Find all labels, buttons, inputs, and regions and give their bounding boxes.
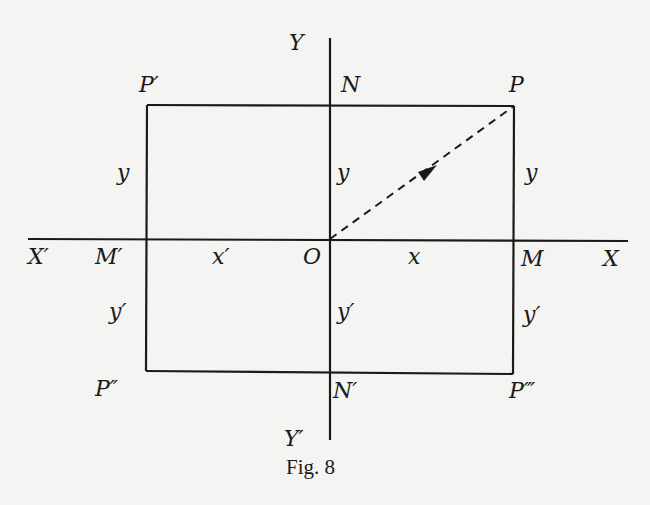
arrowhead-icon	[418, 165, 437, 181]
x-axis	[28, 239, 628, 241]
label-point-m: M	[520, 246, 544, 271]
label-y-axis: Y	[289, 30, 306, 55]
label-y-prime-left: y′	[108, 299, 126, 324]
label-point-p-triple-prime: P‴	[508, 378, 536, 403]
label-x-prime-axis: X′	[26, 244, 49, 269]
rectangle-bottom-side	[146, 371, 513, 374]
diagram-canvas: Y Y′ X′ X O P′ N P M′ M P″ N′ P‴ y y y x…	[0, 0, 650, 505]
label-point-p: P	[508, 72, 525, 97]
rectangle-right-side	[513, 106, 514, 374]
label-point-n: N	[340, 72, 361, 97]
label-x-axis: X	[601, 246, 620, 271]
label-x-prime-segment: x′	[212, 244, 229, 269]
rectangle-top-side	[147, 105, 514, 106]
coordinate-diagram: Y Y′ X′ X O P′ N P M′ M P″ N′ P‴ y y y x…	[0, 0, 650, 505]
label-y-center: y	[336, 160, 350, 185]
label-point-n-prime: N′	[332, 378, 357, 403]
label-x-segment: x	[408, 244, 421, 269]
figure-caption: Fig. 8	[286, 455, 335, 479]
label-y-prime-right: y′	[522, 302, 540, 327]
label-origin: O	[303, 244, 321, 269]
rectangle-left-side	[146, 105, 147, 371]
label-point-m-prime: M′	[94, 244, 123, 269]
label-y-left: y	[116, 160, 130, 185]
label-y-prime-center: y′	[336, 299, 354, 324]
label-point-p-double-prime: P″	[94, 376, 119, 401]
label-y-right: y	[524, 160, 538, 185]
label-y-prime-axis: Y′	[284, 426, 304, 451]
label-point-p-prime: P′	[138, 72, 159, 97]
